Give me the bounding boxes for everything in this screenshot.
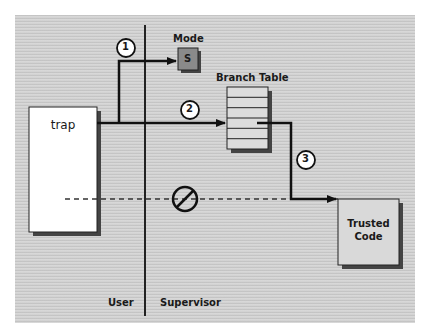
- mode-value: S: [184, 53, 191, 64]
- supervisor-region-label: Supervisor: [160, 297, 221, 308]
- user-region-label: User: [108, 297, 134, 308]
- trap-label: trap: [29, 118, 97, 132]
- step-1-number: 1: [122, 41, 129, 52]
- diagram-canvas: [0, 0, 427, 335]
- step-3-number: 3: [302, 153, 309, 164]
- trusted-code-line-1: Trusted: [338, 217, 399, 230]
- trusted-code-label: Trusted Code: [338, 217, 399, 243]
- branch-table-title: Branch Table: [216, 72, 289, 83]
- branch-table: [227, 87, 272, 153]
- trusted-code-line-2: Code: [338, 230, 399, 243]
- mode-title: Mode: [173, 33, 204, 44]
- step-1-arrow: [119, 61, 176, 123]
- step-2-number: 2: [186, 103, 193, 114]
